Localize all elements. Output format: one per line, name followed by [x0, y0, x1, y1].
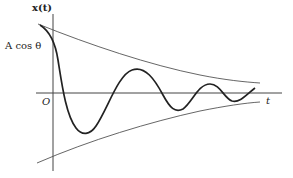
damped-oscillation-chart: x(t) A cos θ O t: [0, 0, 293, 178]
initial-value-label: A cos θ: [5, 40, 41, 51]
x-axis-label: t: [266, 95, 270, 106]
chart-canvas: [0, 0, 293, 178]
y-axis-label: x(t): [32, 2, 52, 13]
lower-envelope: [37, 102, 260, 163]
origin-label: O: [42, 96, 50, 107]
